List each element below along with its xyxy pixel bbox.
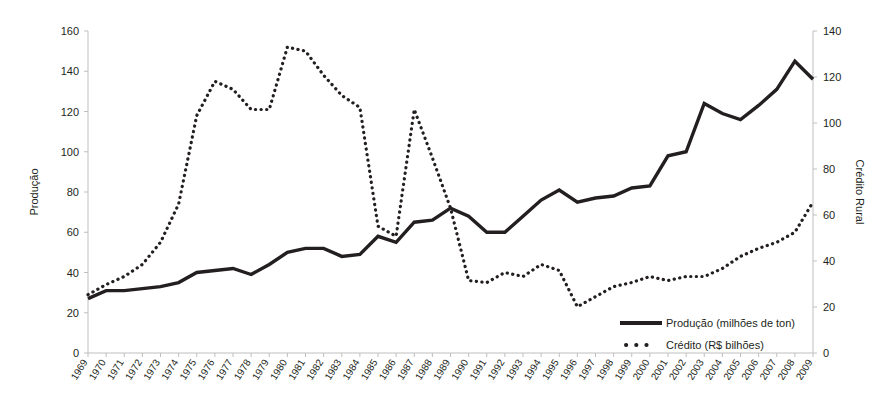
left-axis-tick-label: 40: [67, 267, 79, 279]
right-axis-tick-label: 60: [823, 209, 835, 221]
left-axis-tick-label: 120: [61, 106, 79, 118]
x-axis-tick-label: 1981: [286, 357, 307, 382]
x-axis-tick-label: 1983: [322, 357, 343, 382]
x-axis-tick-label: 1979: [250, 357, 271, 382]
x-axis-tick-label: 1987: [395, 357, 416, 382]
x-axis-tick-label: 1986: [377, 357, 398, 382]
x-axis-tick-label: 1994: [522, 357, 543, 382]
right-axis-tick-label: 20: [823, 301, 835, 313]
line-chart: 020406080100120140160Produção02040608010…: [0, 0, 885, 406]
left-axis-tick-label: 80: [67, 186, 79, 198]
right-axis-tick-label: 100: [823, 117, 841, 129]
x-axis-tick-label: 1971: [105, 357, 126, 382]
x-axis-tick-label: 1993: [504, 357, 525, 382]
x-axis-tick-label: 2009: [794, 357, 815, 382]
legend-label-credito: Crédito (R$ bilhões): [666, 339, 764, 351]
right-axis-tick-label: 80: [823, 163, 835, 175]
x-axis-tick-label: 2007: [757, 357, 778, 382]
right-axis-tick-label: 140: [823, 25, 841, 37]
x-axis-tick-label: 1989: [431, 357, 452, 382]
right-axis-title: Crédito Rural: [854, 160, 866, 225]
x-axis-tick-label: 1999: [612, 357, 633, 382]
left-axis-tick-label: 100: [61, 146, 79, 158]
right-axis-tick-label: 120: [823, 71, 841, 83]
left-axis-title: Produção: [28, 168, 40, 215]
x-axis-tick-label: 1990: [449, 357, 470, 382]
x-axis-tick-label: 1974: [159, 357, 180, 382]
left-axis-tick-label: 0: [73, 347, 79, 359]
x-axis-tick-label: 2001: [649, 357, 670, 382]
x-axis-tick-label: 2004: [703, 357, 724, 382]
series-line-producao: [88, 61, 813, 298]
x-axis-tick-label: 1978: [232, 357, 253, 382]
x-axis-tick-label: 1992: [485, 357, 506, 382]
x-axis-tick-label: 2002: [667, 357, 688, 382]
x-axis-tick-label: 1976: [195, 357, 216, 382]
x-axis-tick-label: 2008: [775, 357, 796, 382]
x-axis-tick-label: 1975: [177, 357, 198, 382]
x-axis-tick-label: 2005: [721, 357, 742, 382]
legend-label-producao: Produção (milhões de ton): [666, 317, 795, 329]
x-axis-tick-label: 1997: [576, 357, 597, 382]
x-axis-tick-label: 1991: [467, 357, 488, 382]
x-axis-tick-label: 2000: [630, 357, 651, 382]
left-axis-tick-label: 140: [61, 65, 79, 77]
x-axis-tick-label: 1984: [340, 357, 361, 382]
left-axis-tick-label: 60: [67, 226, 79, 238]
series-line-credito: [88, 47, 813, 307]
x-axis-tick-label: 1998: [594, 357, 615, 382]
x-axis-tick-label: 2006: [739, 357, 760, 382]
left-axis-tick-label: 160: [61, 25, 79, 37]
x-axis-tick-label: 1985: [359, 357, 380, 382]
x-axis-tick-label: 1969: [69, 357, 90, 382]
x-axis-tick-label: 2003: [685, 357, 706, 382]
x-axis-tick-label: 1973: [141, 357, 162, 382]
chart-container: 020406080100120140160Produção02040608010…: [0, 0, 885, 406]
x-axis-tick-label: 1972: [123, 357, 144, 382]
x-axis-tick-label: 1977: [214, 357, 235, 382]
x-axis-tick-label: 1982: [304, 357, 325, 382]
x-axis-tick-label: 1995: [540, 357, 561, 382]
x-axis-tick-label: 1988: [413, 357, 434, 382]
x-axis-tick-label: 1970: [87, 357, 108, 382]
right-axis-tick-label: 40: [823, 255, 835, 267]
right-axis-tick-label: 0: [823, 347, 829, 359]
left-axis-tick-label: 20: [67, 307, 79, 319]
x-axis-tick-label: 1980: [268, 357, 289, 382]
x-axis-tick-label: 1996: [558, 357, 579, 382]
